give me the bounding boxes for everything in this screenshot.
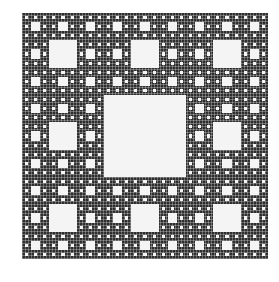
carpet-hole — [222, 22, 231, 31]
carpet-hole — [225, 253, 228, 256]
carpet-hole — [189, 253, 192, 256]
carpet-hole — [71, 98, 74, 101]
carpet-hole — [225, 16, 228, 19]
carpet-hole — [80, 253, 83, 256]
carpet-hole — [61, 171, 64, 174]
carpet-hole — [71, 189, 74, 192]
carpet-hole — [98, 107, 101, 110]
carpet-hole — [253, 207, 256, 210]
carpet-hole — [189, 52, 192, 55]
carpet-hole — [244, 34, 247, 37]
carpet-hole — [98, 198, 101, 201]
carpet-hole — [98, 153, 101, 156]
carpet-hole — [235, 16, 238, 19]
carpet-hole — [216, 189, 219, 192]
carpet-hole — [140, 241, 149, 250]
carpet-hole — [58, 186, 67, 195]
carpet-hole — [125, 216, 128, 219]
carpet-hole — [61, 34, 64, 37]
carpet-hole — [34, 226, 37, 229]
carpet-hole — [86, 186, 95, 195]
carpet-hole — [250, 131, 259, 140]
carpet-hole — [162, 198, 165, 201]
carpet-hole — [189, 71, 192, 74]
carpet-hole — [162, 25, 165, 28]
carpet-hole — [43, 34, 46, 37]
sierpinski-carpet — [22, 13, 268, 259]
carpet-hole — [189, 125, 192, 128]
carpet-hole — [80, 116, 83, 119]
carpet-hole — [61, 253, 64, 256]
carpet-hole — [198, 71, 201, 74]
carpet-hole — [80, 216, 83, 219]
carpet-hole — [180, 207, 183, 210]
carpet-hole — [216, 71, 219, 74]
carpet-hole — [34, 89, 37, 92]
carpet-hole — [250, 77, 259, 86]
carpet-hole — [107, 244, 110, 247]
carpet-hole — [207, 34, 210, 37]
carpet-hole — [86, 104, 95, 113]
carpet-hole — [244, 62, 247, 65]
carpet-hole — [134, 71, 137, 74]
carpet-hole — [189, 171, 192, 174]
carpet-hole — [98, 89, 101, 92]
carpet-hole — [107, 198, 110, 201]
carpet-hole — [153, 180, 156, 183]
carpet-hole — [213, 122, 240, 149]
carpet-hole — [107, 71, 110, 74]
carpet-hole — [171, 34, 174, 37]
carpet-hole — [168, 213, 177, 222]
carpet-hole — [80, 144, 83, 147]
carpet-hole — [89, 98, 92, 101]
carpet-hole — [262, 80, 265, 83]
carpet-hole — [180, 216, 183, 219]
carpet-hole — [80, 34, 83, 37]
carpet-hole — [198, 180, 201, 183]
carpet-hole — [71, 80, 74, 83]
carpet-hole — [113, 22, 122, 31]
carpet-hole — [52, 171, 55, 174]
carpet-hole — [89, 71, 92, 74]
carpet-hole — [262, 153, 265, 156]
carpet-hole — [253, 62, 256, 65]
carpet-hole — [98, 226, 101, 229]
carpet-hole — [107, 80, 110, 83]
carpet-hole — [262, 144, 265, 147]
carpet-hole — [250, 22, 259, 31]
carpet-hole — [125, 52, 128, 55]
carpet-hole — [180, 253, 183, 256]
carpet-hole — [171, 71, 174, 74]
carpet-hole — [25, 125, 28, 128]
carpet-hole — [61, 98, 64, 101]
carpet-hole — [125, 71, 128, 74]
carpet-hole — [34, 71, 37, 74]
carpet-hole — [216, 171, 219, 174]
carpet-hole — [107, 180, 110, 183]
carpet-hole — [71, 107, 74, 110]
carpet-hole — [207, 216, 210, 219]
carpet-hole — [89, 207, 92, 210]
carpet-hole — [86, 22, 95, 31]
carpet-hole — [43, 253, 46, 256]
carpet-hole — [244, 80, 247, 83]
carpet-hole — [207, 207, 210, 210]
carpet-hole — [162, 244, 165, 247]
carpet-hole — [89, 144, 92, 147]
carpet-hole — [43, 134, 46, 137]
carpet-hole — [25, 52, 28, 55]
carpet-hole — [52, 71, 55, 74]
carpet-hole — [244, 98, 247, 101]
carpet-hole — [89, 253, 92, 256]
carpet-hole — [107, 89, 110, 92]
carpet-hole — [80, 134, 83, 137]
carpet-hole — [43, 16, 46, 19]
carpet-hole — [216, 180, 219, 183]
carpet-hole — [244, 253, 247, 256]
carpet-hole — [198, 34, 201, 37]
carpet-hole — [131, 204, 158, 231]
carpet-hole — [253, 198, 256, 201]
carpet-hole — [244, 226, 247, 229]
carpet-hole — [143, 180, 146, 183]
carpet-hole — [244, 89, 247, 92]
